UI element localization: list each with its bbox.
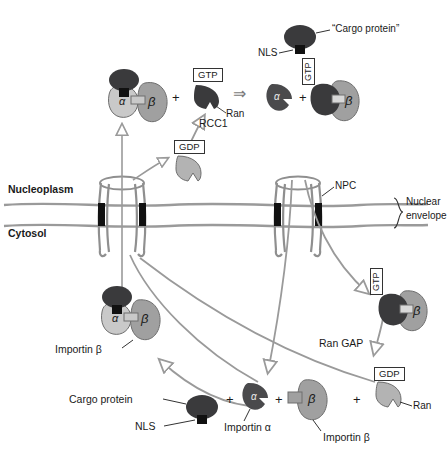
cytosol-label: Cytosol [8,228,47,239]
ran-label-top: Ran [226,109,244,119]
npc-leader-line [322,187,334,196]
gdp-tag-nucleus: GDP [174,140,205,154]
plus-sign-top-2: + [299,91,307,104]
importin-beta-label: Importin β [323,432,370,443]
beta-glyph-bottom-complex: β [141,312,148,325]
path-ran-gap [374,318,383,354]
alpha-glyph-top-complex: α [119,96,125,107]
cargo-protein-free-bottom [163,395,218,426]
beta-glyph-top-right: β [345,94,352,107]
plus-sign-bottom-2: + [275,393,283,406]
importin-alpha-free-bottom [242,383,268,421]
ran-gdp-cytosol [376,382,412,407]
ran-gdp-nucleus [176,156,201,181]
beta-glyph-bottom-right: β [413,304,420,317]
ran-gtp-top [194,85,226,113]
complex-cargo-importin-bottom [101,286,160,348]
cargo-protein-callout: “Cargo protein” [332,24,399,34]
npc-label: NPC [335,181,356,191]
nuclear-envelope-label-line2: envelope [406,211,447,221]
alpha-glyph-bottom-complex: α [112,313,118,324]
plus-sign-bottom-1: + [226,393,234,406]
ran-gap-label: Ran GAP [319,338,363,349]
cargo-protein-label-bottom: Cargo protein [69,394,133,405]
cargo-protein-free-top [279,25,330,54]
ran-label-cytosol: Ran [413,401,431,411]
alpha-glyph-free-bottom: α [251,392,257,402]
beta-glyph-top-complex: β [148,95,155,108]
importin-beta-complex-label: Importin β [55,344,102,355]
gtp-tag-beta-bottom: GTP [370,268,383,295]
importin-alpha-label: Importin α [224,422,271,433]
alpha-glyph-free-top: α [274,92,280,102]
nuclear-envelope-label-line1: Nuclear [406,197,440,207]
nls-label-bottom: NLS [135,421,155,432]
gdp-tag-cytosol: GDP [374,367,405,381]
nls-callout-top: NLS [258,48,277,58]
beta-glyph-free-bottom: β [308,392,315,405]
path-gdp-release [133,158,168,180]
complex-cargo-importin-top [108,69,167,122]
nuclear-envelope [4,204,428,227]
rcc1-label: RCC1 [199,118,228,129]
reaction-arrow-top: ⇒ [233,86,246,102]
plus-sign-top-1: + [172,91,180,104]
nuclear-envelope-bracket [394,198,403,228]
gtp-tag-ran-top: GTP [193,68,223,82]
gtp-tag-beta-top: GTP [302,58,315,85]
plus-sign-bottom-3: + [353,393,361,406]
nucleoplasm-label: Nucleoplasm [8,184,73,195]
